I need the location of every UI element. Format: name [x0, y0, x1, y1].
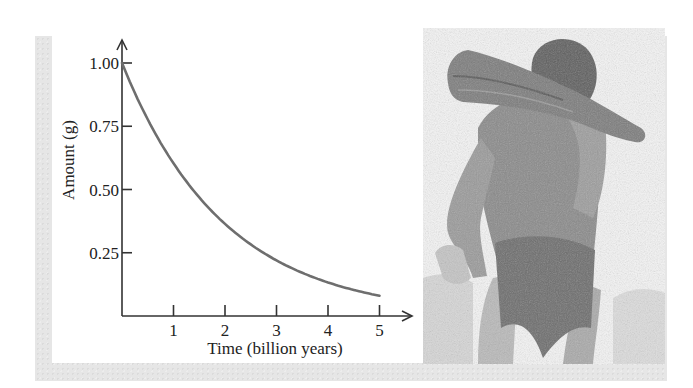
- y-tick-labels: 0.250.500.751.00: [89, 54, 119, 263]
- x-tick-label: 2: [221, 321, 230, 340]
- y-tick-label: 0.75: [89, 117, 119, 136]
- x-axis-title: Time (billion years): [207, 339, 342, 358]
- x-tick-label: 1: [169, 321, 178, 340]
- x-ticks: [174, 305, 380, 316]
- y-tick-label: 0.50: [89, 181, 119, 200]
- y-tick-label: 1.00: [89, 54, 119, 73]
- decay-curve: [122, 63, 380, 296]
- x-tick-labels: 12345: [169, 321, 384, 340]
- y-tick-label: 0.25: [89, 244, 119, 263]
- y-axis-title: Amount (g): [59, 120, 78, 200]
- x-tick-label: 4: [324, 321, 333, 340]
- axes: [117, 40, 412, 321]
- x-tick-label: 5: [375, 321, 384, 340]
- x-tick-label: 3: [272, 321, 281, 340]
- caveman-illustration: [423, 28, 665, 364]
- y-ticks: [122, 63, 132, 253]
